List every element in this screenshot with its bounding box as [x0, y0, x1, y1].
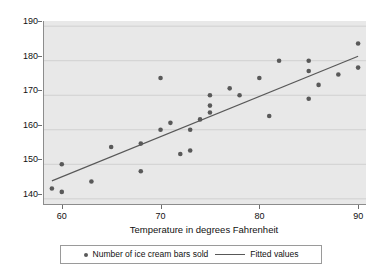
x-axis-title: Temperature in degrees Fahrenheit — [43, 224, 365, 235]
scatter-point — [50, 186, 55, 191]
x-tick-mark — [259, 205, 260, 209]
legend-entry-scatter: Number of ice cream bars sold — [84, 250, 209, 259]
scatter-point — [168, 121, 173, 126]
scatter-point — [306, 58, 311, 63]
scatter-point — [198, 117, 203, 122]
legend-label: Fitted values — [250, 250, 298, 259]
scatter-points — [50, 41, 361, 194]
scatter-point — [208, 103, 213, 108]
scatter-point — [188, 148, 193, 153]
plot-canvas — [44, 21, 366, 204]
y-axis: 190 180 170 160 150 140 — [0, 0, 38, 273]
y-tick-mark — [38, 159, 42, 160]
scatter-point — [89, 179, 94, 184]
x-tick-label: 80 — [239, 212, 279, 221]
scatter-point — [306, 69, 311, 74]
scatter-point — [336, 72, 341, 77]
fitted-values-line — [52, 56, 358, 181]
scatter-point — [158, 127, 163, 132]
scatter-point — [188, 127, 193, 132]
scatter-point — [277, 58, 282, 63]
gridlines — [44, 26, 366, 199]
y-tick-label: 170 — [6, 86, 38, 95]
scatter-point — [138, 141, 143, 146]
scatter-point — [138, 169, 143, 174]
scatter-point — [356, 65, 361, 70]
scatter-point — [59, 162, 64, 167]
scatter-point — [227, 86, 232, 91]
y-tick-label: 190 — [6, 17, 38, 26]
scatter-point — [257, 76, 262, 81]
y-tick-label: 140 — [6, 190, 38, 199]
scatter-point — [316, 83, 321, 88]
y-tick-mark — [38, 125, 42, 126]
y-tick-mark — [38, 90, 42, 91]
chart-legend: Number of ice cream bars sold Fitted val… — [60, 245, 322, 264]
scatter-point — [237, 93, 242, 98]
y-tick-label: 160 — [6, 121, 38, 130]
scatter-point — [208, 110, 213, 115]
scatter-point — [267, 114, 272, 119]
scatter-point — [158, 76, 163, 81]
scatter-point — [178, 152, 183, 157]
legend-label: Number of ice cream bars sold — [93, 250, 209, 259]
plot-area — [43, 21, 366, 205]
line-segment-icon — [215, 254, 245, 255]
x-tick-label: 90 — [338, 212, 378, 221]
y-tick-label: 150 — [6, 155, 38, 164]
scatter-point — [356, 41, 361, 46]
scatter-dot-icon — [84, 253, 88, 257]
scatter-point — [109, 145, 114, 150]
x-tick-mark — [358, 205, 359, 209]
y-tick-mark — [38, 56, 42, 57]
scatter-point — [306, 96, 311, 101]
scatter-point — [59, 190, 64, 195]
scatter-plot-figure: 190 180 170 160 150 140 60 70 80 90 Temp… — [0, 0, 382, 273]
y-tick-mark — [38, 194, 42, 195]
x-tick-label: 70 — [141, 212, 181, 221]
scatter-point — [208, 93, 213, 98]
x-tick-mark — [62, 205, 63, 209]
y-tick-mark — [38, 21, 42, 22]
legend-entry-fitline: Fitted values — [215, 250, 298, 259]
x-tick-label: 60 — [42, 212, 82, 221]
y-tick-label: 180 — [6, 52, 38, 61]
fit-line — [52, 56, 358, 181]
x-tick-mark — [161, 205, 162, 209]
